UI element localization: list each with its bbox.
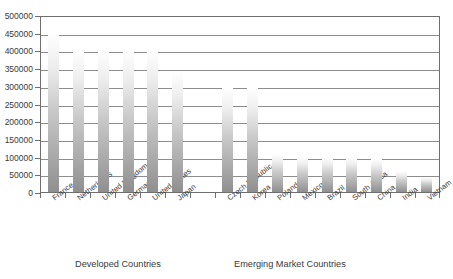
bar-slot	[91, 17, 116, 192]
bar-slot	[165, 17, 190, 192]
bar	[73, 50, 84, 192]
bar	[297, 157, 308, 192]
bar	[147, 50, 158, 192]
x-axis-category-labels: FranceNetherlandsUnited KingdomGermanyUn…	[40, 196, 440, 252]
bar	[346, 157, 357, 192]
y-axis-tick-label: 200000	[0, 118, 40, 127]
bars-layer	[41, 17, 439, 192]
y-axis-tick-label: 150000	[0, 136, 40, 145]
bar	[247, 88, 258, 192]
bar-slot	[290, 17, 315, 192]
group-label-emerging: Emerging Market Countries	[234, 259, 346, 269]
y-axis-tick-label: 50000	[0, 171, 40, 180]
bar	[98, 50, 109, 192]
y-axis-tick-label: 500000	[0, 12, 40, 21]
y-axis-tick-label: 300000	[0, 83, 40, 92]
bar-slot	[215, 17, 240, 192]
bar	[48, 34, 59, 192]
group-label-developed: Developed Countries	[75, 259, 161, 269]
y-axis-tick-label: 100000	[0, 153, 40, 162]
y-axis-tick-label: 250000	[0, 100, 40, 109]
y-axis-tick-label: 450000	[0, 29, 40, 38]
bar-slot	[240, 17, 265, 192]
bar-slot	[265, 17, 290, 192]
bar	[123, 50, 134, 192]
bar-slot	[340, 17, 365, 192]
bar-slot	[116, 17, 141, 192]
bar-slot	[389, 17, 414, 192]
bar-slot	[66, 17, 91, 192]
bar-slot	[414, 17, 439, 192]
plot-area	[40, 16, 440, 193]
bar	[272, 154, 283, 192]
bar	[172, 72, 183, 192]
y-axis-tick-label: 400000	[0, 47, 40, 56]
y-axis-tick-label: 350000	[0, 65, 40, 74]
bar-slot	[141, 17, 166, 192]
bar	[421, 177, 432, 192]
bar	[396, 171, 407, 192]
y-axis-tick-label: 0	[0, 189, 40, 198]
bar	[371, 159, 382, 192]
bar-slot	[315, 17, 340, 192]
group-gap	[190, 17, 215, 192]
y-axis: 5000004500004000003500003000002500002000…	[0, 16, 40, 193]
bar	[222, 88, 233, 192]
bar-slot	[364, 17, 389, 192]
bar-slot	[41, 17, 66, 192]
bar	[322, 157, 333, 192]
